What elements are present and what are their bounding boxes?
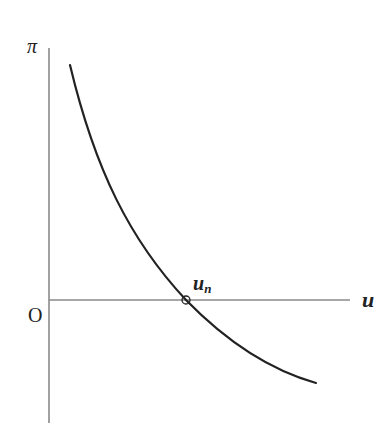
x-axis-label: u — [362, 287, 374, 312]
y-axis-label: π — [27, 35, 38, 57]
point-label-main: u — [193, 272, 204, 294]
curve — [70, 65, 316, 383]
diagram-canvas: π O u un — [0, 0, 392, 440]
point-label: un — [193, 272, 211, 296]
point-label-subscript: n — [204, 281, 211, 296]
origin-label: O — [28, 304, 42, 326]
diagram-svg: π O u un — [0, 0, 392, 440]
